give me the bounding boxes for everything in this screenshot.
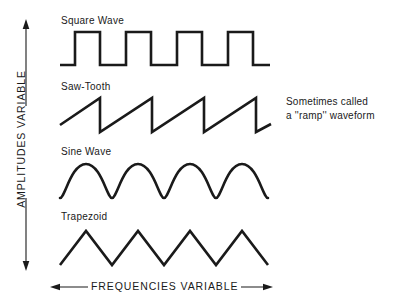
waveform-square-wave	[55, 25, 280, 70]
waveform-saw-tooth	[55, 92, 280, 137]
waveform-sine-wave	[55, 158, 280, 204]
waveform-trapezoid	[55, 224, 280, 270]
x-axis-label: FREQUENCIES VARIABLE	[88, 280, 241, 292]
y-axis: AMPLITUDES VARIABLE	[0, 0, 48, 305]
ramp-waveform-note: Sometimes called a ''ramp'' waveform	[286, 95, 375, 123]
waveform-label-trapezoid: Trapezoid	[61, 211, 107, 222]
waveform-label-sine-wave: Sine Wave	[61, 146, 111, 157]
waveform-figure: AMPLITUDES VARIABLE Square Wave Saw-Toot…	[0, 0, 393, 305]
y-axis-label: AMPLITUDES VARIABLE	[15, 39, 27, 239]
waveform-label-saw-tooth: Saw-Tooth	[61, 81, 111, 92]
ramp-note-line-2: a ''ramp'' waveform	[286, 109, 375, 123]
ramp-note-line-1: Sometimes called	[286, 95, 375, 109]
